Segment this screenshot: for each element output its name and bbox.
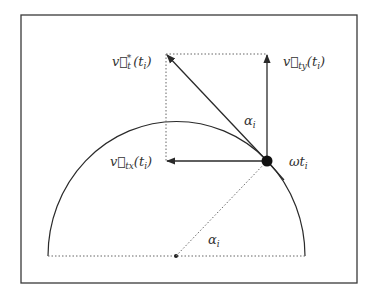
- diagram-canvas: v⃗t*(ti) v⃗ty(ti) v⃗tx(ti) ωti αi αi: [0, 0, 370, 296]
- label-alpha-lower: αi: [208, 232, 220, 249]
- label-vtx: v⃗tx(ti): [110, 154, 152, 171]
- label-omega-t: ωti: [289, 154, 308, 171]
- radius-dotted-line: [176, 161, 267, 256]
- label-vt: v⃗t*(ti): [112, 53, 152, 71]
- label-alpha-upper: αi: [244, 113, 256, 130]
- moving-point: [262, 156, 273, 167]
- label-vty: v⃗ty(ti): [283, 54, 325, 71]
- vt-arrow: [167, 55, 267, 161]
